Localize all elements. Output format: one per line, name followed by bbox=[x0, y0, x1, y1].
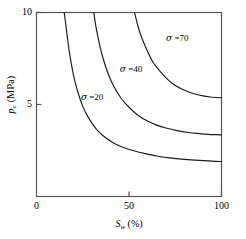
x-axis-label: Sw (%) bbox=[36, 218, 222, 231]
curve-label-2: σ =20 bbox=[81, 92, 103, 102]
x-tick-label: 100 bbox=[207, 200, 237, 211]
y-tick-label: 10 bbox=[6, 6, 32, 17]
curve-label-1: σ =40 bbox=[120, 64, 142, 74]
x-tick-label: 0 bbox=[22, 200, 52, 211]
capillary-pressure-chart: pc (MPa) Sw (%) 050100 510 σ =70σ =40σ =… bbox=[0, 0, 246, 239]
data-curves bbox=[64, 13, 221, 162]
y-axis-tick-marks bbox=[37, 13, 42, 105]
y-axis-label: pc (MPa) bbox=[5, 60, 18, 130]
x-tick-label: 50 bbox=[114, 200, 144, 211]
y-axis-label-symbol: p bbox=[5, 108, 16, 113]
curve-sigma-70 bbox=[135, 13, 222, 98]
x-axis-tick-marks bbox=[129, 192, 222, 197]
curve-sigma-20 bbox=[64, 13, 221, 162]
x-axis-label-unit: (%) bbox=[125, 218, 143, 229]
plot-frame bbox=[37, 13, 222, 197]
curve-label-0: σ =70 bbox=[166, 33, 188, 43]
y-tick-label: 5 bbox=[6, 98, 32, 109]
curve-sigma-40 bbox=[94, 13, 222, 135]
